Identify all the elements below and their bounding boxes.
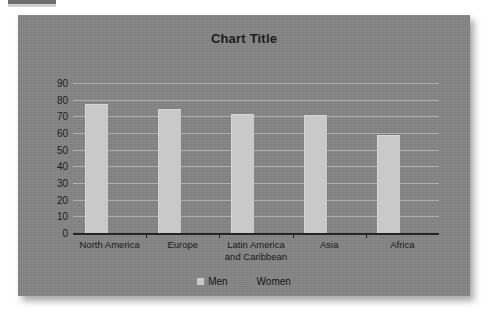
chart-legend: MenWomen	[18, 276, 470, 287]
legend-swatch-icon	[246, 278, 253, 285]
x-axis-tick	[146, 233, 147, 238]
bar	[377, 135, 400, 233]
x-axis-category-label: Europe	[146, 239, 219, 251]
x-axis-category-label: Africa	[366, 239, 439, 251]
x-axis-category-label-line: Europe	[146, 239, 219, 251]
x-axis-category-label: Latin Americaand Caribbean	[219, 239, 292, 263]
chart-title: Chart Title	[18, 31, 470, 46]
legend-item[interactable]: Women	[246, 276, 291, 287]
x-axis-category-label-line: Asia	[293, 239, 366, 251]
bar	[304, 115, 327, 233]
gridline	[73, 100, 439, 101]
chart-panel: Chart Title 0102030405060708090 MenWomen…	[18, 15, 470, 296]
x-axis-category-label-line: Latin America	[219, 239, 292, 251]
y-axis-tick-label: 10	[42, 211, 68, 222]
x-axis-category-label: North America	[73, 239, 146, 251]
gridline	[73, 116, 439, 117]
bar	[231, 114, 254, 233]
x-axis-category-label-line: North America	[73, 239, 146, 251]
gridline	[73, 133, 439, 134]
y-axis-tick-label: 40	[42, 161, 68, 172]
legend-label: Women	[257, 276, 291, 287]
x-axis-category-label-line: Africa	[366, 239, 439, 251]
y-axis-tick-label: 90	[42, 78, 68, 89]
x-axis-category-label-line: and Caribbean	[219, 251, 292, 263]
x-axis-tick	[366, 233, 367, 238]
y-axis-tick-label: 80	[42, 94, 68, 105]
plot-area	[73, 83, 439, 233]
top-edge-artifact-highlight	[8, 4, 56, 7]
y-axis-tick-label: 60	[42, 128, 68, 139]
legend-label: Men	[208, 276, 227, 287]
y-axis-labels: 0102030405060708090	[40, 83, 68, 233]
bar	[85, 104, 108, 233]
y-axis-tick-label: 30	[42, 178, 68, 189]
legend-swatch-icon	[197, 278, 204, 285]
y-axis-tick-label: 20	[42, 194, 68, 205]
y-axis-tick-label: 0	[42, 228, 68, 239]
x-axis-category-label: Asia	[293, 239, 366, 251]
legend-item[interactable]: Men	[197, 276, 227, 287]
bar	[158, 109, 181, 233]
x-axis-tick	[219, 233, 220, 238]
x-axis-tick	[293, 233, 294, 238]
y-axis-tick-label: 50	[42, 144, 68, 155]
y-axis-tick-label: 70	[42, 111, 68, 122]
gridline	[73, 83, 439, 84]
x-axis-line	[73, 233, 439, 235]
